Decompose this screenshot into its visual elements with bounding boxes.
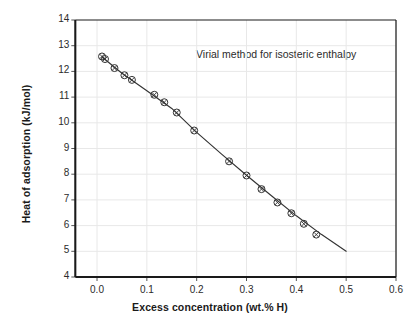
data-point-marker [102,56,109,63]
x-tick-label: 0.4 [276,284,316,295]
data-point-marker [128,76,135,83]
chart-figure: Heat of adsorption (kJ/mol) Excess conce… [0,0,420,322]
data-point-marker [151,91,158,98]
data-point-marker [300,220,307,227]
x-tick-label: 0.6 [376,284,416,295]
data-point-marker [243,172,250,179]
y-tick-label: 5 [43,244,69,255]
data-point-marker [313,231,320,238]
y-tick-label: 8 [43,167,69,178]
x-tick-label: 0.3 [227,284,267,295]
tickmarks-group [71,20,396,281]
data-point-marker [226,158,233,165]
data-point-marker [121,72,128,79]
y-tick-label: 9 [43,142,69,153]
y-tick-label: 6 [43,219,69,230]
x-tick-label: 0.2 [177,284,217,295]
x-tick-label: 0.5 [326,284,366,295]
x-tick-label: 0.1 [127,284,167,295]
data-point-marker [191,127,198,134]
data-point-marker [288,210,295,217]
data-point-marker [274,199,281,206]
y-tick-label: 10 [43,116,69,127]
y-tick-label: 14 [43,13,69,24]
data-point-marker [258,186,265,193]
y-tick-label: 4 [43,270,69,281]
data-point-marker [111,65,118,72]
data-point-marker [173,109,180,116]
x-tick-label: 0.0 [77,284,117,295]
y-tick-label: 13 [43,39,69,50]
y-tick-label: 12 [43,64,69,75]
y-tick-label: 11 [43,90,69,101]
y-tick-label: 7 [43,193,69,204]
data-point-marker [161,99,168,106]
data-series-group [99,53,347,251]
gridlines-group [75,20,396,277]
